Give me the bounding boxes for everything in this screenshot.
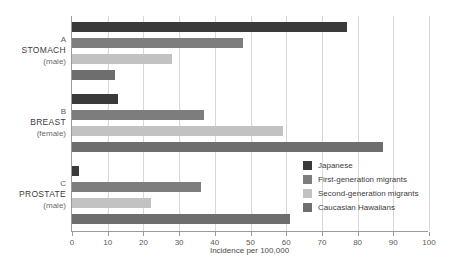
category-letter: C [0, 178, 66, 189]
incidence-bar-chart: 0102030405060708090100 Incidence per 100… [0, 0, 463, 278]
category-sex: (male) [0, 56, 66, 67]
gridline [429, 16, 430, 231]
x-axis-tick [215, 232, 216, 236]
bar-stomach-japanese [72, 22, 347, 32]
category-label-a: ASTOMACH(male) [0, 34, 71, 67]
x-axis-tick [72, 232, 73, 236]
category-label-c: CPROSTATE(male) [0, 178, 71, 211]
legend-label: Japanese [318, 161, 353, 170]
category-label-b: BBREAST(female) [0, 106, 71, 139]
x-axis-tick [143, 232, 144, 236]
bar-stomach-second-generation-migrants [72, 54, 172, 64]
gridline [179, 16, 180, 231]
bar-stomach-first-generation-migrants [72, 38, 243, 48]
legend-label: First-generation migrants [318, 175, 407, 184]
category-letter: A [0, 34, 66, 45]
gridline [251, 16, 252, 231]
legend-swatch-icon [303, 161, 312, 170]
legend-item: Caucasian Hawaiians [303, 200, 419, 214]
x-axis-label: Incidence per 100,000 [71, 246, 428, 255]
category-name: BREAST [0, 117, 66, 128]
x-axis-tick [358, 232, 359, 236]
category-letter: B [0, 106, 66, 117]
x-axis-tick [286, 232, 287, 236]
bar-stomach-caucasian-hawaiians [72, 70, 115, 80]
category-name: PROSTATE [0, 189, 66, 200]
bar-prostate-first-generation-migrants [72, 182, 201, 192]
bar-prostate-caucasian-hawaiians [72, 214, 290, 224]
legend-label: Caucasian Hawaiians [318, 203, 395, 212]
category-name: STOMACH [0, 45, 66, 56]
legend-item: Japanese [303, 158, 419, 172]
bar-breast-first-generation-migrants [72, 110, 204, 120]
x-axis-tick [393, 232, 394, 236]
bar-breast-second-generation-migrants [72, 126, 283, 136]
legend-label: Second-generation migrants [318, 189, 419, 198]
bar-prostate-second-generation-migrants [72, 198, 151, 208]
legend-swatch-icon [303, 203, 312, 212]
bar-breast-japanese [72, 94, 118, 104]
x-axis-tick [429, 232, 430, 236]
chart-legend: JapaneseFirst-generation migrantsSecond-… [303, 158, 419, 214]
bar-breast-caucasian-hawaiians [72, 142, 383, 152]
legend-swatch-icon [303, 189, 312, 198]
bar-prostate-japanese [72, 166, 79, 176]
x-axis-tick [108, 232, 109, 236]
legend-swatch-icon [303, 175, 312, 184]
x-axis-tick [179, 232, 180, 236]
legend-item: Second-generation migrants [303, 186, 419, 200]
x-axis-tick [322, 232, 323, 236]
category-sex: (female) [0, 128, 66, 139]
x-axis-tick [251, 232, 252, 236]
legend-item: First-generation migrants [303, 172, 419, 186]
gridline [286, 16, 287, 231]
category-sex: (male) [0, 200, 66, 211]
gridline [215, 16, 216, 231]
